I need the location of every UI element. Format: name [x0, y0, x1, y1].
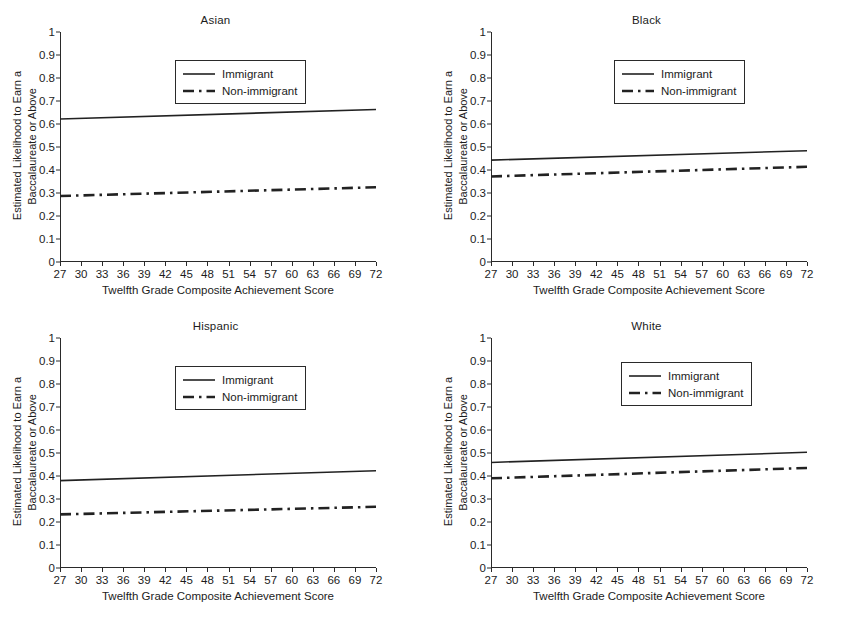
x-tick-mark [786, 262, 787, 266]
x-tick-mark [271, 568, 272, 572]
x-tick-label: 42 [590, 268, 603, 280]
x-tick-label: 27 [485, 574, 498, 586]
x-tick-mark [596, 568, 597, 572]
y-tick-label: 1 [480, 332, 486, 344]
y-tick-label: 0.9 [470, 355, 486, 367]
y-tick-label: 0.2 [39, 516, 55, 528]
x-tick-mark [617, 262, 618, 266]
y-axis-label-line1: Estimated Likelihood to Earn a [441, 377, 456, 526]
x-tick-label: 27 [485, 268, 498, 280]
legend-white: ImmigrantNon-immigrant [621, 362, 752, 406]
x-tick-label: 54 [243, 574, 256, 586]
series-line-non-immigrant [491, 167, 807, 177]
y-axis-label-line2: Baccalaureate or Above [25, 88, 40, 205]
legend-row-immigrant: Immigrant [628, 367, 743, 384]
y-tick-label: 0.3 [39, 493, 55, 505]
y-tick-label: 0.4 [39, 470, 55, 482]
series-line-non-immigrant [60, 187, 376, 196]
x-tick-label: 33 [96, 268, 109, 280]
x-axis-label-asian: Twelfth Grade Composite Achievement Scor… [40, 284, 396, 296]
legend-row-nonimmigrant: Non-immigrant [621, 82, 736, 99]
legend-asian: ImmigrantNon-immigrant [175, 60, 306, 104]
y-tick-label: 0.8 [39, 378, 55, 390]
x-tick-label: 48 [201, 268, 214, 280]
y-tick-label: 0.7 [470, 95, 486, 107]
x-tick-label: 57 [695, 574, 708, 586]
x-tick-label: 39 [138, 268, 151, 280]
x-tick-mark [376, 568, 377, 572]
panel-title-white: White [431, 320, 862, 332]
x-tick-label: 51 [222, 268, 235, 280]
x-tick-label: 33 [527, 574, 540, 586]
x-tick-mark [702, 568, 703, 572]
legend-key-solid-line [621, 68, 655, 80]
x-tick-mark [554, 568, 555, 572]
x-tick-label: 63 [306, 268, 319, 280]
legend-key-dash-dot-line [182, 391, 216, 403]
x-tick-mark [186, 568, 187, 572]
x-tick-label: 30 [506, 574, 519, 586]
x-tick-label: 39 [569, 574, 582, 586]
x-tick-label: 36 [117, 268, 130, 280]
x-tick-label: 30 [75, 268, 88, 280]
y-tick-label: 0.1 [39, 539, 55, 551]
y-tick-label: 0.2 [470, 210, 486, 222]
y-tick-label: 0.8 [470, 378, 486, 390]
y-tick-label: 0.3 [39, 187, 55, 199]
x-tick-label: 69 [349, 268, 362, 280]
x-tick-mark [575, 262, 576, 266]
x-tick-label: 30 [506, 268, 519, 280]
x-tick-label: 33 [96, 574, 109, 586]
legend-hispanic: ImmigrantNon-immigrant [175, 366, 306, 410]
y-tick-label: 1 [480, 26, 486, 38]
y-tick-label: 0.5 [39, 141, 55, 153]
x-tick-label: 45 [180, 574, 193, 586]
x-tick-mark [250, 262, 251, 266]
y-axis-label-white: Estimated Likelihood to Earn aBaccalaure… [439, 336, 473, 568]
x-tick-mark [660, 262, 661, 266]
y-tick-label: 0.1 [39, 233, 55, 245]
x-tick-mark [376, 262, 377, 266]
panel-title-asian: Asian [0, 14, 431, 26]
y-axis-label-asian: Estimated Likelihood to Earn aBaccalaure… [8, 30, 42, 262]
x-tick-label: 51 [653, 574, 666, 586]
series-line-non-immigrant [60, 507, 376, 515]
x-tick-mark [596, 262, 597, 266]
x-tick-mark [81, 568, 82, 572]
x-axis-label-black: Twelfth Grade Composite Achievement Scor… [471, 284, 827, 296]
y-axis-label-black: Estimated Likelihood to Earn aBaccalaure… [439, 30, 473, 262]
x-tick-mark [786, 568, 787, 572]
y-tick-label: 0.3 [470, 493, 486, 505]
legend-row-nonimmigrant: Non-immigrant [182, 82, 297, 99]
x-tick-mark [186, 262, 187, 266]
x-tick-mark [250, 568, 251, 572]
x-tick-mark [765, 262, 766, 266]
x-tick-label: 39 [138, 574, 151, 586]
x-tick-label: 69 [780, 268, 793, 280]
x-tick-mark [102, 568, 103, 572]
x-tick-label: 60 [285, 574, 298, 586]
x-tick-mark [681, 262, 682, 266]
legend-row-immigrant: Immigrant [182, 65, 297, 82]
legend-label-nonimmigrant: Non-immigrant [222, 85, 297, 97]
legend-black: ImmigrantNon-immigrant [614, 60, 745, 104]
y-tick-label: 0.2 [39, 210, 55, 222]
y-tick-label: 0.6 [39, 424, 55, 436]
x-tick-mark [123, 568, 124, 572]
y-tick-label: 0.7 [39, 95, 55, 107]
legend-key-solid-line [628, 370, 662, 382]
x-tick-label: 36 [548, 268, 561, 280]
y-tick-label: 0.2 [470, 516, 486, 528]
x-tick-mark [512, 262, 513, 266]
y-tick-label: 0.7 [470, 401, 486, 413]
x-tick-label: 60 [716, 268, 729, 280]
x-tick-label: 63 [306, 574, 319, 586]
panel-title-hispanic: Hispanic [0, 320, 431, 332]
x-tick-label: 36 [117, 574, 130, 586]
x-tick-mark [313, 262, 314, 266]
y-axis-label-line1: Estimated Likelihood to Earn a [10, 71, 25, 220]
x-tick-mark [512, 568, 513, 572]
x-tick-mark [60, 568, 61, 572]
x-tick-mark [533, 568, 534, 572]
x-tick-mark [229, 568, 230, 572]
